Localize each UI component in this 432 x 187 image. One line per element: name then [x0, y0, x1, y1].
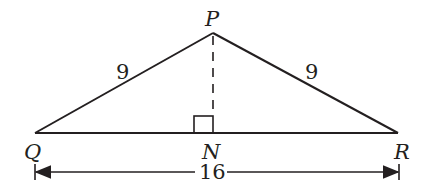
- side-label-pr: 9: [305, 60, 318, 84]
- right-angle-marker: [194, 116, 213, 133]
- triangle-diagram: P Q N R 9 9 16: [0, 0, 432, 187]
- vertex-label-q: Q: [24, 140, 41, 164]
- vertex-label-p: P: [204, 7, 220, 31]
- side-label-pq: 9: [116, 60, 129, 84]
- diagram-svg: P Q N R 9 9 16: [0, 0, 432, 187]
- side-label-qr: 16: [199, 160, 226, 184]
- vertex-label-r: R: [393, 140, 410, 164]
